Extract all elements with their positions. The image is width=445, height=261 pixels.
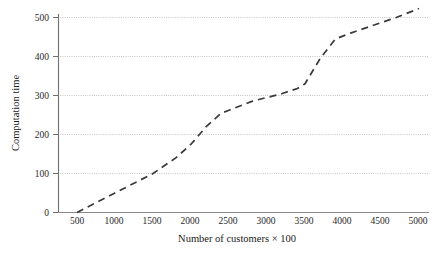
x-tick-label-500: 500: [70, 216, 85, 226]
x-tick-label-4000: 4000: [333, 216, 352, 226]
y-tick-label-0: 0: [44, 208, 49, 218]
x-tick-label-2000: 2000: [181, 216, 200, 226]
axes-lines: [58, 14, 429, 213]
gridlines: [58, 18, 429, 174]
y-tick-label-300: 300: [35, 91, 50, 101]
x-tick-label-3500: 3500: [295, 216, 314, 226]
x-tick-label-3000: 3000: [257, 216, 276, 226]
y-tick-label-500: 500: [35, 13, 50, 23]
series-computation-time: [77, 9, 419, 213]
y-tick-labels: 500 400 300 200 100 0: [35, 13, 50, 218]
x-axis-title: Number of customers × 100: [178, 233, 296, 244]
x-tick-label-2500: 2500: [219, 216, 238, 226]
chart-svg: 500 400 300 200 100 0 500 1000 1500 2000…: [0, 0, 445, 261]
chart-figure: 500 400 300 200 100 0 500 1000 1500 2000…: [0, 0, 445, 261]
y-axis-title: Computation time: [10, 75, 21, 151]
y-tick-label-100: 100: [35, 169, 50, 179]
y-tick-label-400: 400: [35, 52, 50, 62]
x-tick-label-4500: 4500: [371, 216, 390, 226]
x-tick-label-1000: 1000: [105, 216, 124, 226]
data-series-group: [77, 9, 419, 213]
y-tick-label-200: 200: [35, 130, 50, 140]
y-tickmarks: [53, 18, 58, 213]
x-tick-labels: 500 1000 1500 2000 2500 3000 3500 4000 4…: [70, 216, 428, 226]
x-tick-label-1500: 1500: [143, 216, 162, 226]
x-tick-label-5000: 5000: [409, 216, 428, 226]
